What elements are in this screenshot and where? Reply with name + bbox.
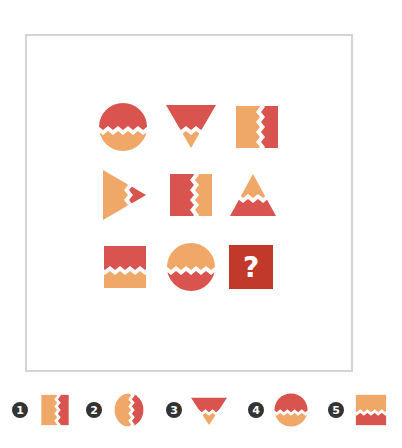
option-number: 1 [12, 402, 28, 418]
triangle-down-split-icon [166, 102, 216, 152]
circle-split-icon [166, 242, 216, 292]
question-mark: ? [229, 245, 273, 289]
option-3[interactable]: 3 [166, 392, 227, 428]
circle-split-icon [273, 392, 309, 428]
square-vertical-split-icon [37, 392, 73, 428]
unknown-cell: ? [229, 245, 273, 289]
grid-cell-square-horizontal [100, 242, 150, 292]
option-number: 4 [248, 402, 264, 418]
square-vertical-split-icon [232, 102, 282, 152]
grid-cell-triangle-right [100, 170, 150, 220]
option-5[interactable]: 5 [328, 392, 389, 428]
option-number: 3 [166, 402, 182, 418]
triangle-down-split-icon [191, 392, 227, 428]
option-number: 5 [328, 402, 344, 418]
grid-cell-triangle-down [166, 102, 216, 152]
triangle-right-split-icon [100, 170, 150, 220]
grid-cell-circle-red-orange [98, 102, 148, 152]
option-2[interactable]: 2 [86, 392, 147, 428]
grid-cell-triangle-up [228, 170, 278, 220]
grid-cell-square-vertical [232, 102, 282, 152]
circle-vertical-split-icon [111, 392, 147, 428]
square-horizontal-split-icon [100, 242, 150, 292]
circle-split-icon [98, 102, 148, 152]
square-vertical-split-icon [166, 170, 216, 220]
option-number: 2 [86, 402, 102, 418]
square-horizontal-split-icon [353, 392, 389, 428]
option-4[interactable]: 4 [248, 392, 309, 428]
grid-cell-square-vertical-2 [166, 170, 216, 220]
option-1[interactable]: 1 [12, 392, 73, 428]
triangle-up-split-icon [228, 170, 278, 220]
grid-cell-circle-orange-red [166, 242, 216, 292]
